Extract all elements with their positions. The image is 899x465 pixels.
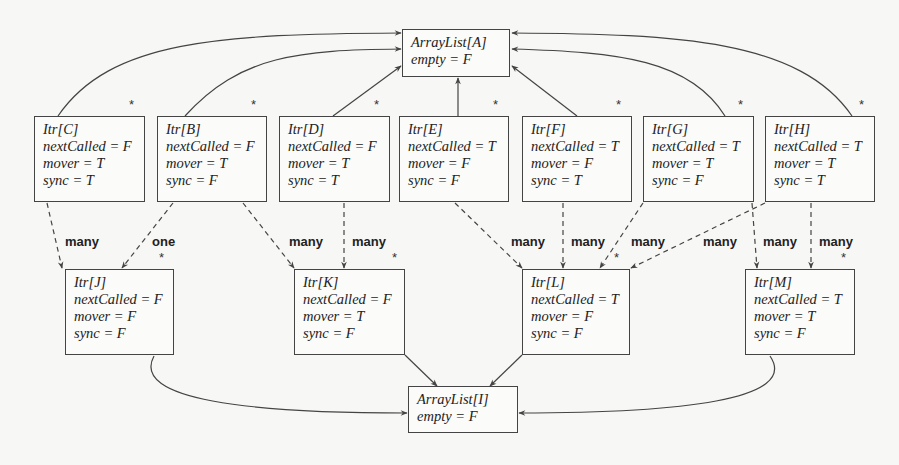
edge-K-I (405, 355, 437, 386)
edge-H-A (512, 33, 852, 116)
multiplicity-star-D: * (374, 97, 379, 112)
node-title: ArrayList[A] (411, 34, 509, 51)
edge-label-C-J: many (65, 234, 99, 249)
node-sync: sync = F (74, 325, 173, 342)
node-nextcalled: nextCalled = F (43, 138, 144, 155)
multiplicity-star-E: * (493, 97, 498, 112)
node-title: Itr[H] (774, 121, 874, 138)
node-nextcalled: nextCalled = T (652, 138, 753, 155)
arraylist-node-I: ArrayList[I] empty = F (408, 386, 518, 433)
node-title: Itr[K] (303, 274, 404, 291)
edge-label-F-L: many (571, 234, 605, 249)
iterator-node-M: Itr[M] nextCalled = T mover = T sync = F (745, 269, 855, 355)
iterator-node-F: Itr[F] nextCalled = T mover = F sync = T (522, 116, 632, 202)
node-nextcalled: nextCalled = F (74, 291, 173, 308)
iterator-node-D: Itr[D] nextCalled = F mover = T sync = T (279, 116, 390, 202)
iterator-node-C: Itr[C] nextCalled = F mover = T sync = T (34, 116, 145, 202)
node-title: Itr[C] (43, 121, 144, 138)
node-mover: mover = T (652, 155, 753, 172)
edge-label-H-L: many (703, 234, 737, 249)
node-title: Itr[D] (288, 121, 389, 138)
edge-M-I (519, 356, 775, 413)
node-title: Itr[B] (166, 121, 266, 138)
node-title: Itr[J] (74, 274, 173, 291)
node-title: Itr[G] (652, 121, 753, 138)
node-title: Itr[F] (531, 121, 631, 138)
multiplicity-star-F: * (616, 97, 621, 112)
edge-label-G-M: many (763, 234, 797, 249)
edge-D-A (333, 66, 401, 116)
node-mover: mover = F (74, 308, 173, 325)
edge-F-A (512, 66, 577, 116)
node-title: Itr[L] (531, 274, 629, 291)
node-mover: mover = T (43, 155, 144, 172)
node-mover: mover = F (531, 155, 631, 172)
node-nextcalled: nextCalled = T (531, 138, 631, 155)
iterator-node-K: Itr[K] nextCalled = F mover = T sync = F (294, 269, 405, 355)
multiplicity-star-J: * (159, 250, 164, 265)
edge-B-K (243, 203, 294, 268)
node-sync: sync = F (754, 325, 854, 342)
node-sync: sync = F (408, 172, 508, 189)
node-empty: empty = F (411, 51, 509, 68)
edge-B-A (185, 49, 401, 116)
node-title: Itr[E] (408, 121, 508, 138)
multiplicity-star-K: * (392, 250, 397, 265)
node-mover: mover = T (166, 155, 266, 172)
multiplicity-star-G: * (738, 97, 743, 112)
node-sync: sync = F (303, 325, 404, 342)
iterator-node-E: Itr[E] nextCalled = T mover = F sync = F (399, 116, 509, 202)
edge-C-J (47, 203, 62, 268)
node-sync: sync = T (43, 172, 144, 189)
edge-label-G-L: many (631, 234, 665, 249)
node-sync: sync = F (652, 172, 753, 189)
multiplicity-star-L: * (614, 250, 619, 265)
edge-G-M (752, 203, 757, 268)
iterator-node-L: Itr[L] nextCalled = T mover = F sync = F (522, 269, 630, 355)
iterator-node-B: Itr[B] nextCalled = F mover = T sync = F (157, 116, 267, 202)
edge-label-H-M: many (819, 234, 853, 249)
edge-label-B-J: one (152, 234, 175, 249)
node-mover: mover = T (303, 308, 404, 325)
edge-label-B-K: many (289, 234, 323, 249)
node-sync: sync = F (166, 172, 266, 189)
node-sync: sync = T (288, 172, 389, 189)
node-nextcalled: nextCalled = F (288, 138, 389, 155)
multiplicity-star-H: * (859, 97, 864, 112)
iterator-node-G: Itr[G] nextCalled = T mover = T sync = F (643, 116, 754, 202)
node-sync: sync = F (531, 325, 629, 342)
node-sync: sync = T (774, 172, 874, 189)
node-mover: mover = T (774, 155, 874, 172)
iterator-node-H: Itr[H] nextCalled = T mover = T sync = T (765, 116, 875, 202)
node-nextcalled: nextCalled = F (303, 291, 404, 308)
arraylist-node-A: ArrayList[A] empty = F (402, 29, 510, 77)
node-title: ArrayList[I] (417, 391, 517, 408)
node-mover: mover = F (408, 155, 508, 172)
edge-J-I (151, 356, 407, 413)
edge-label-D-K: many (352, 234, 386, 249)
node-empty: empty = F (417, 408, 517, 425)
node-nextcalled: nextCalled = F (166, 138, 266, 155)
multiplicity-star-B: * (251, 97, 256, 112)
node-nextcalled: nextCalled = T (531, 291, 629, 308)
node-nextcalled: nextCalled = T (408, 138, 508, 155)
edge-L-I (490, 355, 522, 386)
node-mover: mover = T (754, 308, 854, 325)
multiplicity-star-C: * (129, 97, 134, 112)
edge-label-E-L: many (511, 234, 545, 249)
node-mover: mover = T (288, 155, 389, 172)
node-mover: mover = F (531, 308, 629, 325)
node-sync: sync = T (531, 172, 631, 189)
node-nextcalled: nextCalled = T (754, 291, 854, 308)
node-title: Itr[M] (754, 274, 854, 291)
node-nextcalled: nextCalled = T (774, 138, 874, 155)
iterator-node-J: Itr[J] nextCalled = F mover = F sync = F (65, 269, 174, 355)
multiplicity-star-M: * (841, 250, 846, 265)
